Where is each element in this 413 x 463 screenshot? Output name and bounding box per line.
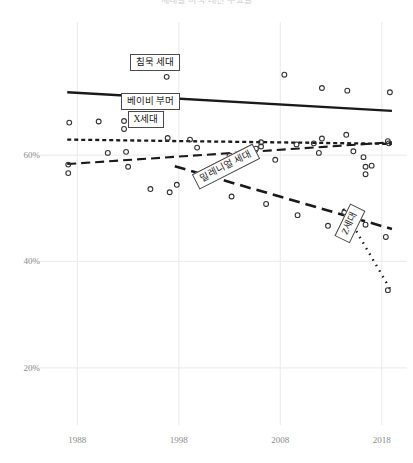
series-lines <box>67 92 392 288</box>
chart-container: 세대별 미국 대선 투표율 60%40%20% 1988199820082018… <box>0 0 413 463</box>
y-tick-label: 60% <box>6 150 40 160</box>
x-tick-label: 2008 <box>260 435 300 445</box>
x-tick-label: 1998 <box>159 435 199 445</box>
series-label-boomer: 베이비 부머 <box>121 93 180 110</box>
x-tick-label: 2018 <box>362 435 402 445</box>
x-tick-label: 1988 <box>57 435 97 445</box>
y-tick-label: 20% <box>6 363 40 373</box>
series-label-genx: X세대 <box>128 111 165 128</box>
series-label-silent: 침묵 세대 <box>130 54 180 71</box>
y-tick-label: 40% <box>6 256 40 266</box>
